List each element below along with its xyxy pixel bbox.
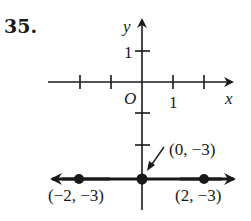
callout-arrow-icon [147, 147, 164, 171]
x-axis-label: x [224, 89, 233, 108]
y-axis-label: y [121, 17, 131, 36]
origin-label: O [124, 89, 136, 108]
label-point-2-neg3: (2, −3) [175, 186, 221, 205]
point-0-neg3 [137, 174, 148, 185]
problem-number: 35. [4, 15, 37, 37]
y-tick-label: 1 [124, 43, 133, 62]
point-2-neg3 [199, 174, 209, 184]
label-point-neg2-neg3: (−2, −3) [48, 186, 104, 205]
label-point-0-neg3: (0, −3) [169, 140, 215, 159]
x-tick-label: 1 [169, 93, 178, 112]
point-neg2-neg3 [74, 174, 84, 184]
x-axis [48, 75, 232, 89]
graph-figure: 35. y 1 O 1 x (0, −3) (−2, −3) (2, −3) [0, 0, 251, 221]
